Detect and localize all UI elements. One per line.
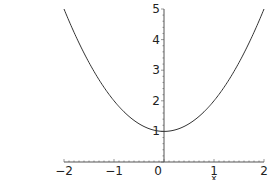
y-axis: 12345: [152, 2, 164, 162]
y-tick-label: 4: [152, 33, 160, 47]
y-tick-label: 2: [152, 94, 160, 108]
x-tick-label: −1: [105, 164, 123, 178]
y-tick-label: 5: [152, 2, 160, 16]
x-tick-label: −2: [55, 164, 73, 178]
y-tick-label: 3: [152, 63, 160, 77]
axis-labels: x: [211, 173, 217, 180]
x-axis-label: x: [211, 173, 217, 180]
x-tick-label: 0: [154, 164, 162, 178]
plot-area: −2−1012 12345 x: [0, 0, 268, 180]
x-tick-label: 2: [260, 164, 268, 178]
